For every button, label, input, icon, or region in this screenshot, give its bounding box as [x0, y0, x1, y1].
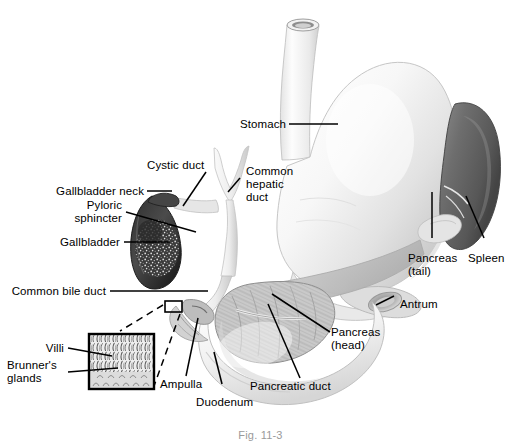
label-pyloric-sphincter-line1: Pyloric: [0, 199, 122, 212]
label-cystic-duct: Cystic duct: [147, 159, 204, 172]
figure-caption: Fig. 11-3: [0, 429, 521, 441]
label-common-hepatic-duct-line2: hepatic: [246, 178, 284, 191]
anatomy-figure: Stomach Cystic duct Common hepatic duct …: [0, 0, 521, 442]
label-spleen: Spleen: [468, 252, 504, 265]
label-common-bile-duct: Common bile duct: [0, 285, 106, 298]
villi-inset: [89, 334, 154, 389]
label-pancreas-tail-line1: Pancreas: [408, 252, 457, 265]
label-brunners-glands-line2: glands: [7, 372, 42, 385]
label-common-hepatic-duct-line1: Common: [246, 165, 293, 178]
label-gallbladder-neck: Gallbladder neck: [0, 185, 144, 198]
label-pyloric-sphincter-line2: sphincter: [0, 212, 122, 225]
label-pancreas-tail-line2: (tail): [408, 265, 431, 278]
label-antrum: Antrum: [400, 298, 438, 311]
label-villi: Villi: [0, 342, 64, 355]
label-pancreas-head-line2: (head): [331, 339, 365, 352]
label-duodenum: Duodenum: [196, 396, 253, 409]
label-common-hepatic-duct-line3: duct: [246, 191, 268, 204]
label-pancreatic-duct: Pancreatic duct: [250, 380, 331, 393]
callout-dash-top: [120, 305, 163, 331]
label-pancreas-head-line1: Pancreas: [331, 326, 380, 339]
label-gallbladder: Gallbladder: [0, 236, 120, 249]
gallbladder-organ: [131, 193, 182, 289]
label-brunners-glands-line1: Brunner's: [7, 359, 57, 372]
label-stomach: Stomach: [240, 118, 286, 131]
label-ampulla: Ampulla: [160, 378, 202, 391]
